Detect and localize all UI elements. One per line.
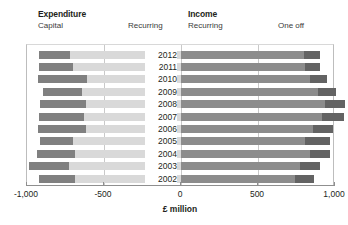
year-label: 2010 (145, 74, 177, 84)
axis-tick-label: 1,000 (323, 189, 344, 200)
bar-segment (38, 125, 86, 133)
axis-title: £ million (26, 204, 334, 214)
year-label: 2012 (145, 50, 177, 60)
bar-row: 2009 (27, 88, 333, 96)
year-label: 2011 (145, 62, 177, 72)
year-label: 2006 (145, 124, 177, 134)
axis-tick (257, 182, 258, 186)
bar-segment (181, 175, 295, 183)
axis-tick-label: 500 (250, 189, 264, 200)
legend-item-one-off: One off (278, 20, 304, 31)
bar-row: 2006 (27, 125, 333, 133)
year-label: 2009 (145, 87, 177, 97)
bar-segment (39, 175, 74, 183)
axis-tick-label: -1,000 (14, 189, 38, 200)
bar-segment (181, 113, 322, 121)
bar-segment (37, 150, 75, 158)
x-axis: £ million -1,000-50005001,000 (26, 185, 334, 225)
bar-segment (39, 113, 84, 121)
legend-group-income: IncomeRecurringOne off (188, 9, 217, 31)
year-label: 2005 (145, 136, 177, 146)
bar-segment (181, 88, 318, 96)
bar-segment (181, 162, 300, 170)
bar-segment (40, 100, 86, 108)
plot-area: 2012201120102009200820072006200520042003… (26, 44, 334, 185)
legend-group-expenditure: ExpenditureCapitalRecurring (38, 9, 86, 31)
axis-tick (26, 182, 27, 186)
bar-segment (313, 125, 333, 133)
axis-tick (180, 182, 181, 186)
bar-segment (300, 162, 320, 170)
bar-segment (43, 88, 82, 96)
year-label: 2008 (145, 99, 177, 109)
axis-tick-label: 0 (178, 189, 183, 200)
legend-items: CapitalRecurring (38, 20, 86, 31)
bar-segment (181, 63, 305, 71)
bar-segment (181, 137, 305, 145)
legend-item-recurring: Recurring (188, 20, 223, 31)
bar-segment (181, 100, 325, 108)
legend-group-title: Expenditure (38, 9, 86, 19)
bar-segment (181, 51, 304, 59)
bar-segment (40, 137, 73, 145)
bar-segment (305, 137, 330, 145)
bar-segment (39, 51, 70, 59)
axis-tick (334, 182, 335, 186)
bar-segment (310, 150, 330, 158)
bar-segment (181, 125, 313, 133)
bar-segment (304, 51, 320, 59)
bar-row: 2010 (27, 75, 333, 83)
bar-row: 2012 (27, 51, 333, 59)
chart-legend: ExpenditureCapitalRecurringIncomeRecurri… (0, 0, 348, 42)
legend-item-recurring: Recurring (128, 20, 163, 31)
bar-row: 2005 (27, 137, 333, 145)
bar-rows: 2012201120102009200820072006200520042003… (27, 45, 333, 185)
year-label: 2004 (145, 149, 177, 159)
bar-segment (295, 175, 314, 183)
bar-segment (322, 113, 344, 121)
legend-group-title: Income (188, 9, 217, 19)
bar-segment (325, 100, 345, 108)
axis-tick-label: -500 (94, 189, 111, 200)
bar-segment (39, 63, 74, 71)
bar-segment (305, 63, 320, 71)
legend-items: RecurringOne off (188, 20, 217, 31)
bar-row: 2008 (27, 100, 333, 108)
bar-row: 2004 (27, 150, 333, 158)
bar-segment (181, 150, 310, 158)
year-label: 2007 (145, 112, 177, 122)
axis-tick (103, 182, 104, 186)
year-label: 2002 (145, 174, 177, 184)
bar-segment (29, 162, 70, 170)
bar-row: 2003 (27, 162, 333, 170)
bar-row: 2011 (27, 63, 333, 71)
bar-segment (181, 75, 310, 83)
bar-segment (310, 75, 327, 83)
bar-segment (318, 88, 336, 96)
legend-item-capital: Capital (38, 20, 63, 31)
year-label: 2003 (145, 161, 177, 171)
bar-row: 2007 (27, 113, 333, 121)
bar-segment (38, 75, 87, 83)
